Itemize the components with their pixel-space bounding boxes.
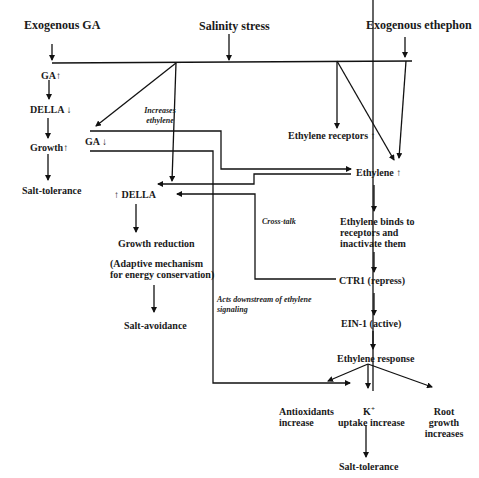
ethylene-label: Ethylene — [356, 167, 394, 178]
della-label: DELLA — [30, 104, 64, 115]
cross-talk-annotation: Cross-talk — [262, 217, 296, 227]
growth-reduction-label: Growth reduction — [118, 238, 195, 249]
della-decrease-node: DELLA ↓ — [30, 104, 71, 115]
ga-label: GA — [41, 70, 56, 81]
adaptive-mechanism-label: (Adaptive mechanism for energy conservat… — [110, 258, 214, 280]
ethylene-response-label: Ethylene response — [337, 353, 414, 364]
up-arrow-icon: ↑ — [56, 70, 61, 81]
salt-tolerance-final-label: Salt-tolerance — [339, 461, 398, 472]
della-label: DELLA — [122, 189, 156, 200]
ctr1-label: CTR1 (repress) — [339, 275, 405, 286]
increases-ethylene-annotation: Increases ethylene — [130, 106, 190, 126]
down-arrow-icon: ↓ — [66, 104, 71, 115]
up-arrow-icon: ↑ — [114, 189, 119, 200]
up-arrow-icon: ↑ — [371, 130, 376, 141]
root-growth-increases-label: Root growth increases — [422, 406, 466, 439]
growth-label: Growth — [30, 142, 63, 153]
exogenous-ethephon-label: Exogenous ethephon — [366, 19, 472, 32]
ga-increase-node: GA↑ — [41, 70, 61, 81]
salinity-stress-label: Salinity stress — [199, 20, 270, 33]
ga-ethylene-salinity-diagram: Exogenous GA Salinity stress Exogenous e… — [0, 0, 479, 478]
ga-decrease-node: GA ↓ — [85, 136, 107, 147]
ethylene-binds-label: Ethylene binds to receptors and inactiva… — [340, 216, 414, 249]
ethylene-receptors-label: Ethylene receptors — [288, 130, 368, 141]
exogenous-ga-label: Exogenous GA — [24, 19, 100, 32]
up-arrow-icon: ↑ — [396, 167, 401, 178]
salt-tolerance-left-label: Salt-tolerance — [22, 185, 81, 196]
up-arrow-icon: ↑ — [63, 142, 68, 153]
k-uptake-increase-label: K+ uptake increase — [338, 404, 400, 428]
ga-label: GA — [85, 136, 99, 147]
ein1-label: EIN-1 (active) — [341, 318, 401, 329]
della-increase-node: ↑ DELLA — [114, 189, 156, 200]
ethylene-receptors-increase-node: Ethylene receptors ↑ — [288, 130, 376, 141]
down-arrow-icon: ↓ — [102, 136, 107, 147]
ethylene-increase-node: Ethylene ↑ — [356, 167, 401, 178]
growth-increase-node: Growth↑ — [30, 142, 68, 153]
antioxidants-increase-label: Antioxidants increase — [279, 406, 334, 428]
salt-avoidance-label: Salt-avoidance — [124, 320, 187, 331]
acts-downstream-annotation: Acts downstream of ethylene signaling — [217, 295, 311, 315]
